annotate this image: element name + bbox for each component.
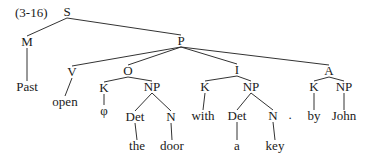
tree-node-v: V [67, 64, 77, 79]
tree-edges [27, 18, 344, 140]
tree-nodes: SMPPastVopenOKφNPDetNthedoorIKwithNPDetN… [16, 4, 357, 153]
tree-edge-s-p [67, 18, 181, 35]
tree-node-np2: NP [243, 79, 260, 94]
tree-node-a: A [324, 63, 334, 78]
tree-node-the: the [129, 138, 145, 153]
tree-node-key: key [266, 138, 285, 153]
tree-edge-s-m [27, 18, 67, 36]
tree-edge-i-k2 [205, 76, 237, 81]
tree-node-phi: φ [100, 103, 108, 118]
tree-node-k2: K [200, 79, 210, 94]
tree-node-a: a [234, 138, 240, 153]
tree-node-np1: NP [144, 79, 161, 94]
tree-edge-p-o [128, 47, 181, 65]
tree-node-i: I [235, 62, 239, 77]
tree-node-past: Past [16, 79, 38, 94]
tree-edge-p-i [181, 47, 237, 64]
tree-node-p: P [177, 33, 184, 48]
example-number: (3-16) [15, 5, 48, 20]
tree-node-john: John [332, 108, 357, 123]
tree-node-det1: Det [126, 109, 145, 124]
tree-node-k1: K [99, 80, 109, 95]
tree-node-o: O [123, 63, 132, 78]
tree-node-n2: N [268, 108, 278, 123]
syntax-tree-diagram: (3-16) SMPPastVopenOKφNPDetNthedoorIKwit… [0, 0, 372, 159]
tree-node-n1: N [166, 109, 176, 124]
tree-node-door: door [160, 138, 185, 153]
tree-node-by: by [308, 108, 322, 123]
tree-node-dot: . [288, 107, 291, 122]
tree-node-np3: NP [336, 79, 353, 94]
tree-node-with: with [191, 108, 215, 123]
tree-edge-p-a [181, 47, 329, 65]
tree-node-k3: K [309, 79, 319, 94]
tree-node-s: S [63, 4, 70, 19]
tree-node-det2: Det [228, 108, 247, 123]
tree-node-m: M [21, 34, 33, 49]
tree-node-open: open [52, 94, 78, 109]
